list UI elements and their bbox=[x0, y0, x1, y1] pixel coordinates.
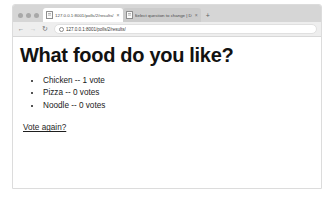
list-item: Pizza -- 0 votes bbox=[42, 87, 321, 99]
vote-again-link[interactable]: Vote again? bbox=[23, 123, 66, 132]
window-controls bbox=[16, 13, 43, 22]
browser-tab-admin[interactable]: Select question to change | D × bbox=[123, 8, 201, 22]
back-icon[interactable]: ← bbox=[17, 25, 25, 33]
address-bar[interactable]: 127.0.0.1:8001/polls/2/results/ bbox=[54, 24, 317, 34]
tab-title: 127.0.0.1:8001/polls/2/results/ bbox=[55, 13, 114, 18]
document-icon bbox=[46, 11, 53, 19]
tab-title: Select question to change | D bbox=[135, 13, 192, 18]
browser-window: 127.0.0.1:8001/polls/2/results/ × Select… bbox=[12, 4, 322, 189]
browser-toolbar: ← → ↻ 127.0.0.1:8001/polls/2/results/ bbox=[13, 22, 321, 37]
forward-icon[interactable]: → bbox=[29, 25, 37, 33]
tab-strip: 127.0.0.1:8001/polls/2/results/ × Select… bbox=[13, 5, 321, 22]
poll-results-list: Chicken -- 1 vote Pizza -- 0 votes Noodl… bbox=[20, 75, 321, 112]
close-window-button[interactable] bbox=[18, 13, 23, 18]
maximize-window-button[interactable] bbox=[34, 13, 39, 18]
list-item: Chicken -- 1 vote bbox=[42, 75, 321, 87]
minimize-window-button[interactable] bbox=[26, 13, 31, 18]
browser-tab-results[interactable]: 127.0.0.1:8001/polls/2/results/ × bbox=[43, 8, 123, 22]
page-title: What food do you like? bbox=[20, 44, 321, 66]
new-tab-button[interactable]: + bbox=[201, 12, 214, 22]
screen: 127.0.0.1:8001/polls/2/results/ × Select… bbox=[0, 0, 329, 201]
close-icon[interactable]: × bbox=[194, 13, 198, 18]
address-bar-url: 127.0.0.1:8001/polls/2/results/ bbox=[66, 27, 126, 32]
page-content: What food do you like? Chicken -- 1 vote… bbox=[13, 37, 321, 188]
close-icon[interactable]: × bbox=[116, 13, 120, 18]
reload-icon[interactable]: ↻ bbox=[41, 25, 49, 33]
site-info-icon[interactable] bbox=[59, 27, 64, 32]
list-item: Noodle -- 0 votes bbox=[42, 100, 321, 112]
document-icon bbox=[126, 11, 133, 19]
